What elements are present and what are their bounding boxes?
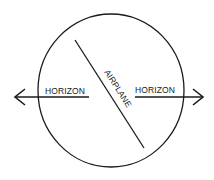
horizon-label-right: HORIZON	[135, 85, 175, 95]
airplane-line	[75, 40, 144, 148]
airplane-label: AIRPLANE	[102, 68, 134, 110]
horizon-label-left: HORIZON	[45, 86, 85, 96]
attitude-diagram: HORIZON HORIZON AIRPLANE	[0, 0, 214, 180]
